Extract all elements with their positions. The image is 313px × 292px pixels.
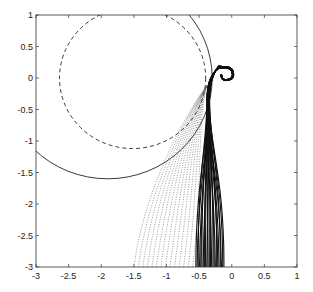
- y-tick-label: 0.5: [20, 42, 33, 52]
- y-tick-label: -2: [25, 199, 33, 209]
- x-tick-label: 1: [294, 271, 299, 281]
- y-tick-labels: -3-2.5-2-1.5-1-0.500.51: [17, 10, 33, 272]
- x-tick-label: -0.5: [191, 271, 207, 281]
- x-tick-label: -1: [162, 271, 170, 281]
- y-tick-label: -0.5: [17, 105, 33, 115]
- x-tick-label: 0.5: [258, 271, 271, 281]
- x-tick-labels: -3-2.5-2-1.5-1-0.500.51: [32, 271, 300, 281]
- x-tick-label: -1.5: [126, 271, 142, 281]
- y-tick-label: -1.5: [17, 168, 33, 178]
- phase-plot: -3-2.5-2-1.5-1-0.500.51 -3-2.5-2-1.5-1-0…: [0, 0, 313, 292]
- x-tick-label: -2.5: [61, 271, 77, 281]
- y-tick-label: -2.5: [17, 231, 33, 241]
- x-tick-label: -2: [97, 271, 105, 281]
- y-tick-label: -1: [25, 136, 33, 146]
- y-tick-label: 1: [28, 10, 33, 20]
- x-tick-label: -3: [32, 271, 40, 281]
- x-tick-label: 0: [229, 271, 234, 281]
- y-tick-label: -3: [25, 262, 33, 272]
- y-tick-label: 0: [28, 73, 33, 83]
